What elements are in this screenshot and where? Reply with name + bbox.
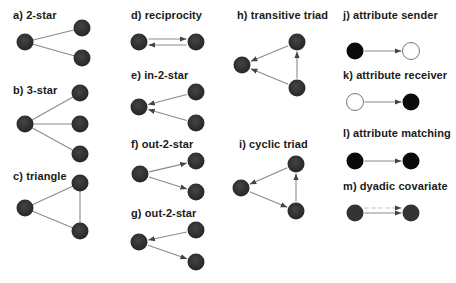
node-white xyxy=(403,43,420,60)
panel-b-edges xyxy=(32,97,74,151)
panel-d-edges xyxy=(149,39,187,45)
node-default xyxy=(188,153,205,170)
node-default xyxy=(72,116,89,133)
panel-i-nodes xyxy=(233,156,305,220)
panel-label-c: c) triangle xyxy=(13,170,67,182)
node-default xyxy=(188,184,205,201)
node-black xyxy=(403,153,420,170)
directed-edge xyxy=(251,69,288,85)
node-default xyxy=(132,166,149,183)
node-white xyxy=(347,94,364,111)
directed-edge xyxy=(148,245,187,259)
directed-edge xyxy=(148,94,187,104)
panel-d-nodes xyxy=(131,34,205,51)
panel-label-i: i) cyclic triad xyxy=(239,138,308,150)
node-dark xyxy=(403,205,420,222)
panel-g-edges xyxy=(148,232,187,259)
node-default xyxy=(74,20,91,37)
node-default xyxy=(72,146,89,163)
panel-label-k: k) attribute receiver xyxy=(343,69,447,81)
panel-e-edges xyxy=(148,94,187,120)
panel-label-j: j) attribute sender xyxy=(343,9,438,21)
panel-label-a: a) 2-star xyxy=(13,9,57,21)
panel-label-f: f) out-2-star xyxy=(131,138,193,150)
nodes-layer xyxy=(17,20,420,271)
node-black xyxy=(347,153,364,170)
panel-e-nodes xyxy=(131,84,205,132)
panel-label-e: e) in-2-star xyxy=(131,69,188,81)
node-default xyxy=(288,203,305,220)
directed-edge xyxy=(250,192,287,208)
panel-c-nodes xyxy=(17,175,89,240)
node-default xyxy=(288,156,305,173)
panel-h-edges xyxy=(251,46,297,85)
edge xyxy=(32,97,74,121)
node-default xyxy=(131,99,148,116)
edge xyxy=(32,44,75,56)
node-default xyxy=(131,34,148,51)
panel-h-nodes xyxy=(234,34,306,97)
edge xyxy=(32,211,73,228)
edge xyxy=(32,30,74,40)
node-black xyxy=(347,43,364,60)
panel-g-nodes xyxy=(131,222,205,271)
directed-edge xyxy=(250,168,288,184)
node-default xyxy=(131,234,148,251)
node-default xyxy=(289,80,306,97)
panel-m-edges xyxy=(365,208,402,213)
directed-edge xyxy=(149,163,186,172)
node-default xyxy=(188,254,205,271)
node-black xyxy=(403,94,420,111)
panel-f-edges xyxy=(149,163,187,189)
panel-a-nodes xyxy=(17,20,91,67)
panel-a-edges xyxy=(32,30,75,56)
node-default xyxy=(72,175,89,192)
panel-label-h: h) transitive triad xyxy=(237,9,328,21)
node-dark xyxy=(347,205,364,222)
node-default xyxy=(289,34,306,51)
edge xyxy=(32,128,74,151)
panel-label-l: l) attribute matching xyxy=(343,127,451,139)
directed-edge xyxy=(148,232,186,240)
edge xyxy=(32,186,73,205)
node-default xyxy=(188,115,205,132)
node-default xyxy=(188,34,205,51)
node-default xyxy=(17,200,34,217)
node-default xyxy=(188,84,205,101)
node-default xyxy=(234,57,251,74)
directed-edge xyxy=(251,46,288,62)
panel-i-edges xyxy=(250,168,296,208)
node-default xyxy=(188,222,205,239)
node-default xyxy=(72,85,89,102)
directed-edge xyxy=(149,177,187,189)
panel-label-m: m) dyadic covariate xyxy=(343,180,448,192)
network-configurations-diagram xyxy=(0,0,456,283)
node-default xyxy=(74,50,91,67)
node-default xyxy=(17,116,34,133)
panel-label-d: d) reciprocity xyxy=(131,9,202,21)
panel-label-b: b) 3-star xyxy=(13,84,57,96)
panel-f-nodes xyxy=(132,153,205,201)
panel-c-edges xyxy=(32,186,80,228)
node-default xyxy=(72,223,89,240)
node-default xyxy=(17,34,34,51)
node-default xyxy=(233,180,250,197)
directed-edge xyxy=(148,110,187,121)
panel-label-g: g) out-2-star xyxy=(131,207,196,219)
